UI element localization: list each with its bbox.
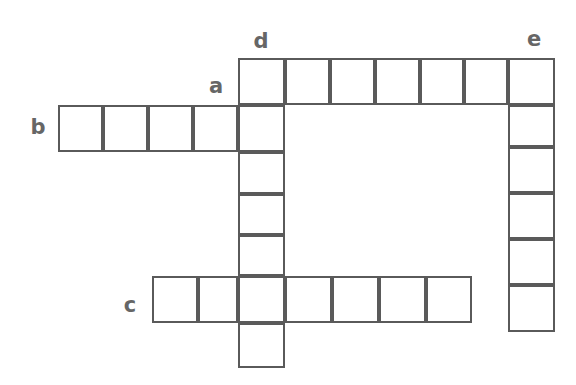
crossword-cell[interactable] xyxy=(508,285,555,332)
entry-label-a: a xyxy=(209,76,223,97)
crossword-cell[interactable] xyxy=(58,105,103,152)
crossword-cell[interactable] xyxy=(508,58,555,105)
crossword-cell[interactable] xyxy=(238,276,285,323)
crossword-cell[interactable] xyxy=(238,152,285,194)
crossword-cell[interactable] xyxy=(508,105,555,147)
crossword-cell[interactable] xyxy=(508,239,555,285)
crossword-cell[interactable] xyxy=(426,276,472,323)
crossword-cell[interactable] xyxy=(238,194,285,235)
entry-label-b: b xyxy=(30,117,45,138)
crossword-cell[interactable] xyxy=(238,105,285,152)
crossword-cell[interactable] xyxy=(285,276,332,323)
crossword-cell[interactable] xyxy=(238,58,285,105)
crossword-puzzle: abcde xyxy=(0,0,576,385)
crossword-cell[interactable] xyxy=(332,276,379,323)
crossword-cell[interactable] xyxy=(375,58,420,105)
crossword-cell[interactable] xyxy=(238,235,285,276)
crossword-cell[interactable] xyxy=(198,276,238,323)
entry-label-d: d xyxy=(253,31,268,52)
entry-label-e: e xyxy=(527,29,541,50)
crossword-cell[interactable] xyxy=(330,58,375,105)
crossword-cell[interactable] xyxy=(148,105,193,152)
crossword-cell[interactable] xyxy=(285,58,330,105)
crossword-cell[interactable] xyxy=(379,276,426,323)
entry-label-c: c xyxy=(124,295,136,316)
crossword-cell[interactable] xyxy=(152,276,198,323)
crossword-cell[interactable] xyxy=(193,105,238,152)
crossword-cell[interactable] xyxy=(508,193,555,239)
crossword-cell[interactable] xyxy=(464,58,508,105)
crossword-cell[interactable] xyxy=(420,58,464,105)
crossword-cell[interactable] xyxy=(508,147,555,193)
crossword-cell[interactable] xyxy=(238,323,285,368)
crossword-cell[interactable] xyxy=(103,105,148,152)
